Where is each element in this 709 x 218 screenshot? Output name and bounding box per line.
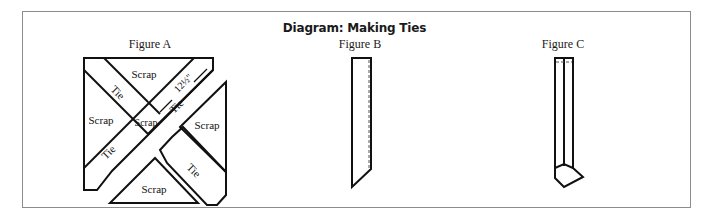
figure-b xyxy=(352,58,371,187)
label-scrap-center: Scrap xyxy=(135,117,158,128)
figure-b-tie-strip xyxy=(352,58,371,187)
figure-c-tie-folded xyxy=(555,58,583,187)
figure-a-cut-line xyxy=(148,102,160,114)
measurement-tick xyxy=(194,69,207,82)
figure-c xyxy=(555,58,583,187)
label-tie-lower-right: Tie xyxy=(185,161,204,180)
making-ties-diagram: Scrap Scrap Scrap Scrap Scrap Tie Tie Ti… xyxy=(0,0,709,218)
label-scrap-right: Scrap xyxy=(194,119,220,131)
label-scrap-left: Scrap xyxy=(88,114,114,126)
label-scrap-bottom: Scrap xyxy=(141,183,167,195)
figure-a: Scrap Scrap Scrap Scrap Scrap Tie Tie Ti… xyxy=(84,58,226,205)
label-scrap-top: Scrap xyxy=(131,68,157,80)
label-tie-lower-left: Tie xyxy=(99,143,118,162)
